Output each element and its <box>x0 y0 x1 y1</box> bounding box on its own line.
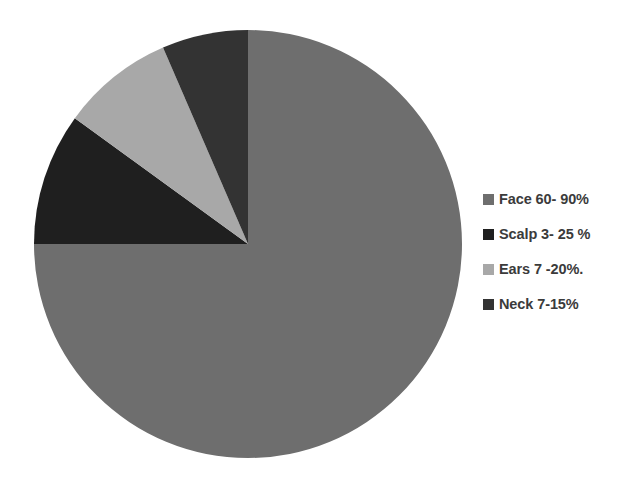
pie-svg <box>34 30 462 458</box>
legend-item-scalp[interactable]: Scalp 3- 25 % <box>483 217 628 252</box>
pie-slice-group <box>34 30 462 458</box>
legend-label-ears: Ears 7 -20%. <box>499 262 583 277</box>
pie-chart-figure: Face 60- 90% Scalp 3- 25 % Ears 7 -20%. … <box>0 0 630 478</box>
legend-swatch-neck-icon <box>483 299 494 310</box>
chart-legend: Face 60- 90% Scalp 3- 25 % Ears 7 -20%. … <box>483 182 628 322</box>
legend-swatch-face-icon <box>483 194 494 205</box>
legend-swatch-scalp-icon <box>483 229 494 240</box>
legend-item-face[interactable]: Face 60- 90% <box>483 182 628 217</box>
legend-item-ears[interactable]: Ears 7 -20%. <box>483 252 628 287</box>
legend-label-face: Face 60- 90% <box>499 192 589 207</box>
legend-item-neck[interactable]: Neck 7-15% <box>483 287 628 322</box>
pie-plot-area <box>34 30 462 458</box>
legend-swatch-ears-icon <box>483 264 494 275</box>
legend-label-neck: Neck 7-15% <box>499 297 579 312</box>
legend-label-scalp: Scalp 3- 25 % <box>499 227 590 242</box>
